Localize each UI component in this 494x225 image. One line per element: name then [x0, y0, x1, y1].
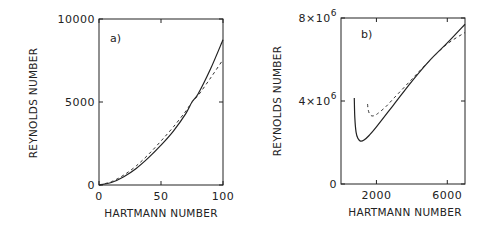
panel-b-frame	[341, 18, 465, 184]
panel-a-series	[99, 40, 223, 185]
y-tick-label: 8×106	[299, 8, 337, 25]
series-dashed-line	[99, 60, 223, 185]
x-tick-label: 0	[95, 190, 103, 203]
panel-b-ylabel: REYNOLDS NUMBER	[271, 46, 283, 157]
x-tick-label: 2000	[361, 189, 391, 202]
panel-a-xlabel: HARTMANN NUMBER	[104, 207, 218, 219]
x-tick-label: 6000	[432, 189, 462, 202]
panel-b-xlabel: HARTMANN NUMBER	[348, 206, 462, 218]
panel-b: REYNOLDS NUMBER HARTMANN NUMBER b) 20006…	[271, 8, 465, 218]
figure: REYNOLDS NUMBER HARTMANN NUMBER a) 05010…	[0, 0, 494, 225]
panel-a-ticks: 0501000500010000	[58, 13, 235, 203]
panel-b-series	[354, 24, 465, 141]
y-tick-label: 4×106	[299, 91, 337, 108]
panel-b-ticks: 2000600004×1068×106	[299, 8, 465, 202]
panel-a: REYNOLDS NUMBER HARTMANN NUMBER a) 05010…	[27, 13, 234, 219]
y-tick-label: 0	[330, 178, 338, 191]
x-tick-label: 50	[154, 190, 169, 203]
series-solid-line	[99, 40, 223, 185]
y-tick-label: 10000	[58, 13, 96, 26]
panel-a-label: a)	[110, 32, 121, 45]
y-tick-label: 0	[88, 179, 96, 192]
x-tick-label: 100	[212, 190, 235, 203]
series-solid-line	[354, 24, 465, 141]
panel-b-label: b)	[361, 28, 372, 41]
series-dashed-line	[368, 33, 465, 116]
panel-a-ylabel: REYNOLDS NUMBER	[27, 48, 39, 159]
y-tick-label: 5000	[65, 96, 95, 109]
